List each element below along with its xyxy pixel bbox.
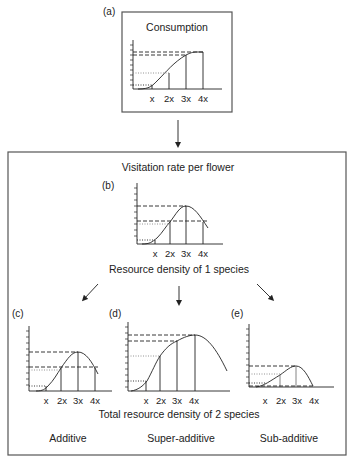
panel-c-tick: x — [44, 395, 49, 406]
panel-d-label: (d) — [109, 308, 121, 319]
additive-label: Additive — [49, 432, 86, 444]
panel-a-title: Consumption — [146, 21, 208, 33]
panel-e-tick: 4x — [309, 395, 319, 406]
panel-e-tick: 3x — [292, 395, 302, 406]
panel-e-tick: 2x — [276, 395, 286, 406]
panel-e-label: (e) — [231, 308, 243, 319]
panel-a-tick: x — [150, 93, 155, 104]
chart-b — [134, 183, 223, 244]
panel-a-label: (a) — [103, 6, 115, 17]
panel-b-tick: 3x — [181, 248, 191, 259]
panel-e-tick: x — [263, 395, 268, 406]
caption-2-species: Total resource density of 2 species — [98, 408, 259, 420]
panel-d-tick: 4x — [189, 395, 199, 406]
panel-b-tick: x — [153, 248, 158, 259]
panel-b-tick: 2x — [165, 248, 175, 259]
panel-c-label: (c) — [12, 308, 24, 319]
arrow-right-icon — [257, 284, 272, 299]
outer-title: Visitation rate per flower — [122, 161, 234, 173]
panel-a-tick: 3x — [181, 93, 191, 104]
chart-c — [26, 326, 112, 391]
panel-a-tick: 2x — [164, 93, 174, 104]
arrow-left-icon — [84, 284, 98, 299]
panel-c-tick: 3x — [73, 395, 83, 406]
panel-b-label: (b) — [102, 180, 114, 191]
panel-c-tick: 4x — [90, 395, 100, 406]
panel-d-tick: 2x — [156, 395, 166, 406]
panel-b-tick: 4x — [198, 248, 208, 259]
panel-c-tick: 2x — [57, 395, 67, 406]
chart-d — [125, 322, 230, 391]
panel-d-tick: x — [144, 395, 149, 406]
sub-additive-label: Sub-additive — [260, 432, 318, 444]
caption-1-species: Resource density of 1 species — [109, 263, 249, 275]
panel-d-tick: 3x — [172, 395, 182, 406]
chart-e — [246, 324, 334, 387]
super-additive-label: Super-additive — [147, 432, 215, 444]
chart-a — [130, 40, 222, 89]
panel-a-tick: 4x — [198, 93, 208, 104]
